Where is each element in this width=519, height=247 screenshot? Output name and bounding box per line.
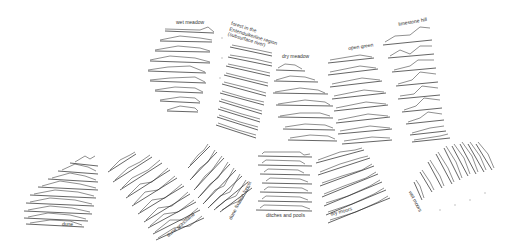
label-wet-meadow: wet meadow: [176, 20, 204, 26]
diagram-canvas: wet meadow forest in the Entenduikerline…: [0, 0, 519, 247]
group-dune: [24, 156, 98, 227]
group-forest-region: [216, 45, 272, 138]
group-wet-meadow: [148, 27, 223, 112]
label-dry-meadow: dry meadow: [282, 54, 309, 60]
label-dune: dune: [62, 222, 73, 228]
group-wet-moors: [414, 142, 494, 211]
group-dune-grassland: [108, 152, 204, 240]
group-open-green: [328, 55, 392, 144]
label-ditches-and-pools: ditches and pools: [266, 213, 305, 219]
group-dry-meadow: [273, 64, 337, 141]
group-dry-moors: [316, 148, 390, 223]
group-limestone-hill: [383, 27, 450, 142]
group-ditches-and-pools: [256, 152, 312, 211]
